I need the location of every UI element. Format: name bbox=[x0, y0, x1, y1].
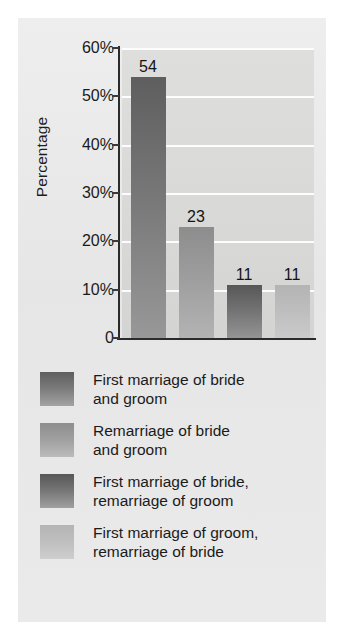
y-axis-tick-label: 20% bbox=[50, 233, 114, 249]
legend-swatch bbox=[40, 474, 74, 508]
legend-label-line2: remarriage of bride bbox=[93, 542, 258, 561]
bar: 23 bbox=[179, 227, 214, 338]
x-axis-line bbox=[117, 338, 316, 340]
y-axis-tick-label: 0 bbox=[50, 330, 114, 346]
bar: 11 bbox=[227, 285, 262, 338]
y-axis-tick-label: 30% bbox=[50, 185, 114, 201]
legend-item: First marriage of bride,remarriage of gr… bbox=[40, 472, 320, 510]
bar-value-label: 11 bbox=[236, 267, 253, 283]
y-axis-tick-mark bbox=[112, 240, 119, 242]
y-axis-tick-mark bbox=[112, 289, 119, 291]
y-axis-tick-label: 50% bbox=[50, 88, 114, 104]
y-axis-tick-mark bbox=[112, 144, 119, 146]
chart-figure: Percentage 60%50%40%30%20%10%0 54231111 … bbox=[18, 18, 326, 622]
y-axis-tick-label: 60% bbox=[50, 40, 114, 56]
legend-swatch bbox=[40, 423, 74, 457]
y-axis-tick-labels: 60%50%40%30%20%10%0 bbox=[40, 18, 114, 348]
legend-label-line1: First marriage of bride, bbox=[93, 472, 249, 491]
legend-item: First marriage of brideand groom bbox=[40, 370, 320, 408]
legend-label: First marriage of brideand groom bbox=[93, 370, 245, 408]
legend-swatch bbox=[40, 525, 74, 559]
legend-label-line1: First marriage of groom, bbox=[93, 523, 258, 542]
bar-value-label: 23 bbox=[187, 209, 205, 225]
chart-legend: First marriage of brideand groomRemarria… bbox=[40, 370, 320, 575]
bar-value-label: 54 bbox=[139, 59, 157, 75]
legend-label: First marriage of bride,remarriage of gr… bbox=[93, 472, 249, 510]
legend-label-line1: First marriage of bride bbox=[93, 370, 245, 389]
legend-label-line2: and groom bbox=[93, 389, 245, 408]
axes: 54231111 bbox=[122, 48, 314, 338]
y-axis-tick-label: 40% bbox=[50, 137, 114, 153]
y-axis-tick-mark bbox=[112, 47, 119, 49]
legend-item: First marriage of groom,remarriage of br… bbox=[40, 523, 320, 561]
plot-area: 54231111 bbox=[122, 48, 314, 338]
legend-label: First marriage of groom,remarriage of br… bbox=[93, 523, 258, 561]
legend-label: Remarriage of brideand groom bbox=[93, 421, 230, 459]
legend-item: Remarriage of brideand groom bbox=[40, 421, 320, 459]
bar: 54 bbox=[131, 77, 166, 338]
y-axis-tick-mark bbox=[112, 192, 119, 194]
y-axis-tick-mark bbox=[112, 95, 119, 97]
legend-swatch bbox=[40, 372, 74, 406]
y-axis-tick-label: 10% bbox=[50, 282, 114, 298]
bar-value-label: 11 bbox=[284, 267, 301, 283]
gridline bbox=[122, 48, 314, 50]
y-axis-tick-mark bbox=[112, 337, 119, 339]
legend-label-line2: and groom bbox=[93, 440, 230, 459]
bar: 11 bbox=[275, 285, 310, 338]
legend-label-line1: Remarriage of bride bbox=[93, 421, 230, 440]
legend-label-line2: remarriage of groom bbox=[93, 491, 249, 510]
plot-region: Percentage 60%50%40%30%20%10%0 54231111 bbox=[18, 18, 326, 348]
